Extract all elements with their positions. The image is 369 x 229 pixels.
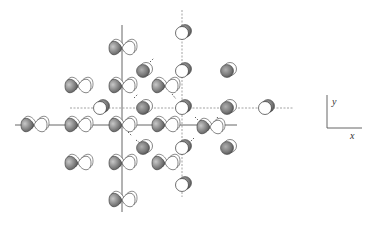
white-atom-sphere-icon <box>259 100 275 115</box>
y-axis-label: y <box>331 96 337 107</box>
p-orbital-icon <box>152 154 180 170</box>
white-atom-sphere-icon <box>176 140 192 155</box>
gray-atom-sphere-icon <box>137 63 153 78</box>
orbitals <box>21 39 225 207</box>
axis-indicator: y x <box>327 95 362 141</box>
p-orbital-icon <box>197 118 225 134</box>
p-orbital-icon <box>109 116 137 132</box>
p-orbital-icon <box>152 116 180 132</box>
p-orbital-icon <box>109 154 137 170</box>
white-atom-sphere-icon <box>176 63 192 78</box>
p-orbital-icon <box>109 77 137 93</box>
gray-atom-sphere-icon <box>221 100 237 115</box>
gray-atom-sphere-icon <box>221 63 237 78</box>
white-atom-sphere-icon <box>176 25 192 40</box>
gray-atom-sphere-icon <box>221 140 237 155</box>
p-orbital-icon <box>65 77 93 93</box>
p-orbital-icon <box>152 77 180 93</box>
p-orbital-icon <box>109 39 137 55</box>
lattice-diagram: y x <box>0 0 369 229</box>
p-orbital-icon <box>65 154 93 170</box>
p-orbital-icon <box>109 191 137 207</box>
x-axis-label: x <box>349 130 355 141</box>
white-atom-sphere-icon <box>176 177 192 192</box>
p-orbital-icon <box>21 116 49 132</box>
p-orbital-icon <box>65 116 93 132</box>
gray-atom-sphere-icon <box>137 100 153 115</box>
white-atom-sphere-icon <box>94 100 110 115</box>
white-atom-sphere-icon <box>176 100 192 115</box>
